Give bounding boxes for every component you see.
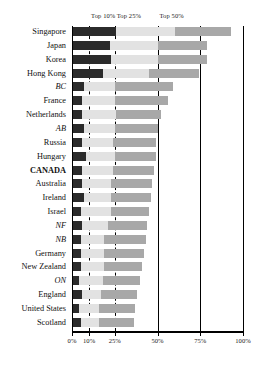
table-row <box>72 276 243 285</box>
x-tick-50 <box>158 331 159 336</box>
y-axis-label-ireland: Ireland <box>0 193 69 202</box>
y-axis-label-nb: NB <box>0 235 69 244</box>
y-axis-label-scotland: Scotland <box>0 318 69 327</box>
table-row <box>72 179 243 188</box>
table-row <box>72 41 243 50</box>
x-tick-label-0: 0% <box>68 337 77 344</box>
table-row <box>72 235 243 244</box>
table-row <box>72 249 243 258</box>
x-tick-label-100: 100% <box>235 337 250 344</box>
bar-segment-top10 <box>72 96 82 105</box>
bar-segment-top10 <box>72 152 86 161</box>
x-tick-0 <box>72 331 73 336</box>
bar-segment-top10 <box>72 138 82 147</box>
y-axis-label-ab: AB <box>0 124 69 133</box>
y-axis-label-hungary: Hungary <box>0 152 69 161</box>
y-axis-label-england: England <box>0 290 69 299</box>
y-axis-label-on: ON <box>0 276 69 285</box>
y-axis-line <box>72 26 73 332</box>
table-row <box>72 138 243 147</box>
bar-segment-top10 <box>72 179 82 188</box>
table-row <box>72 318 243 327</box>
table-row <box>72 221 243 230</box>
bar-segment-top10 <box>72 193 84 202</box>
y-axis-label-korea: Korea <box>0 55 69 64</box>
y-axis-label-singapore: Singapore <box>0 27 69 36</box>
table-row <box>72 124 243 133</box>
x-tick-25 <box>115 331 116 336</box>
y-axis-label-netherlands: Netherlands <box>0 110 69 119</box>
bar-segment-top10 <box>72 41 110 50</box>
table-row <box>72 166 243 175</box>
plot-area <box>72 26 243 331</box>
table-row <box>72 207 243 216</box>
table-row <box>72 304 243 313</box>
x-tick-75 <box>200 331 201 336</box>
y-axis-label-australia: Australia <box>0 179 69 188</box>
column-header-top50: Top 50% <box>160 12 184 19</box>
y-axis-label-hong-kong: Hong Kong <box>0 69 69 78</box>
table-row <box>72 82 243 91</box>
bar-segment-top10 <box>72 110 82 119</box>
reference-line-100 <box>243 26 244 331</box>
bar-segment-top10 <box>72 69 103 78</box>
table-row <box>72 69 243 78</box>
bar-segment-top10 <box>72 124 84 133</box>
table-row <box>72 193 243 202</box>
column-header-top25: Top 25% <box>117 12 141 19</box>
x-tick-10 <box>89 331 90 336</box>
y-axis-label-france: France <box>0 96 69 105</box>
y-axis-label-germany: Germany <box>0 249 69 258</box>
y-axis-label-new-zealand: New Zealand <box>0 262 69 271</box>
bar-segment-top10 <box>72 221 82 230</box>
y-axis-label-israel: Israel <box>0 207 69 216</box>
bar-segment-top10 <box>72 290 82 299</box>
bar-segment-top10 <box>72 82 84 91</box>
y-axis-label-bc: BC <box>0 82 69 91</box>
x-tick-label-75: 75% <box>194 337 206 344</box>
column-header-top10: Top 10% <box>91 12 115 19</box>
x-tick-label-50: 50% <box>151 337 163 344</box>
bar-segment-top10 <box>72 55 111 64</box>
y-axis-label-russia: Russia <box>0 138 69 147</box>
table-row <box>72 55 243 64</box>
table-row <box>72 27 243 36</box>
x-tick-100 <box>243 331 244 336</box>
y-axis-label-japan: Japan <box>0 41 69 50</box>
table-row <box>72 262 243 271</box>
chart-container: Top 10% Top 25% Top 50% SingaporeJapanKo… <box>0 0 264 369</box>
table-row <box>72 96 243 105</box>
bar-segment-top10 <box>72 27 116 36</box>
y-axis-label-nf: NF <box>0 221 69 230</box>
table-row <box>72 290 243 299</box>
x-tick-label-10: 10% <box>83 337 95 344</box>
x-tick-label-25: 25% <box>109 337 121 344</box>
y-axis-label-united-states: United States <box>0 304 69 313</box>
bar-segment-top10 <box>72 166 82 175</box>
y-axis-label-canada: CANADA <box>0 166 69 175</box>
table-row <box>72 152 243 161</box>
table-row <box>72 110 243 119</box>
